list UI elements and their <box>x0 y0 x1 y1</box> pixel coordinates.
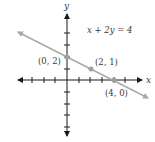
point-2-1 <box>89 67 94 72</box>
point-4-0 <box>112 78 117 83</box>
equation-label: x + 2y = 4 <box>87 25 132 35</box>
point-label-4-0: (4, 0) <box>105 88 128 98</box>
y-axis-label: y <box>63 1 70 11</box>
x-axis-label: x <box>146 75 151 85</box>
y-axis: y <box>63 1 70 136</box>
x-axis: x <box>18 75 151 85</box>
coordinate-graph: x y (0, 2) (2, 1) (4, 0) x + 2y = 4 <box>0 0 155 142</box>
point-label-2-1: (2, 1) <box>95 57 118 67</box>
point-0-2 <box>65 55 70 60</box>
point-label-0-2: (0, 2) <box>38 56 61 66</box>
